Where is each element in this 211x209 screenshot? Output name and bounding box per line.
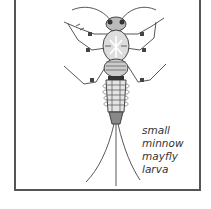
caption-line: mayfly bbox=[142, 150, 183, 163]
caption-line: larva bbox=[142, 163, 183, 176]
caption-line: small bbox=[142, 124, 183, 137]
caption-line: minnow bbox=[142, 137, 183, 150]
caption: small minnow mayfly larva bbox=[142, 124, 183, 176]
figure-frame: small minnow mayfly larva bbox=[14, 0, 201, 191]
